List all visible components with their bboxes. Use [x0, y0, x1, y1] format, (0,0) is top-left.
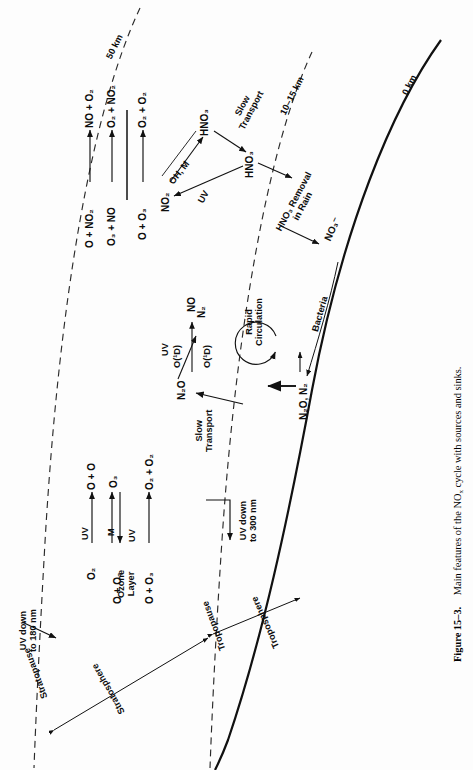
ozone-reaction-arrows: [92, 492, 149, 543]
uv-300-arrow: [206, 500, 230, 540]
rapid-circulation-line2: Circulation: [254, 298, 264, 346]
figure-caption: Figure 15–3. Main features of the NOx cy…: [452, 367, 465, 662]
ozone-eq2-right: O₃: [108, 476, 119, 488]
uv-300-line1: UV down: [238, 501, 248, 540]
stratosphere-extent-arrow: [54, 638, 208, 730]
process-o1d-branch: O(¹D): [172, 345, 182, 368]
species-no-product: NO: [186, 297, 197, 312]
ozone-eq1-right: O + O: [86, 463, 97, 490]
ozone-eq1-condition: UV: [80, 527, 90, 540]
species-hno3-lower: HNO₃: [244, 151, 255, 178]
species-n2o-stratosphere: N₂O: [176, 381, 187, 400]
uv-300-line2: to 300 nm: [248, 499, 258, 542]
ozone-eq1-left: O₂: [86, 568, 97, 580]
species-n2o-n2-surface: N₂O, N₂: [298, 383, 309, 420]
slow-transport-n2o-arrow: [196, 393, 243, 404]
slow-transport-n2o-line1: Slow: [194, 420, 204, 441]
nox-eq1-right: NO + O₂: [84, 89, 95, 128]
slow-transport-n2o-line2: Transport: [204, 410, 214, 452]
nox-eq3-right: O₂ + O₂: [137, 92, 148, 128]
tropopause-arc: [210, 52, 312, 768]
process-rapid-circulation: Rapid Circulation: [244, 298, 265, 346]
uv-down-300nm-label: UV down to 300 nm: [238, 499, 259, 542]
nox-eq2-right: O₂ + NO₂: [106, 85, 117, 128]
figure-canvas: 50 km 10–15 km 0 km O + NO₂ NO + O₂ O₃ +…: [0, 0, 473, 770]
process-uv-n2o: UV: [160, 343, 170, 356]
process-slow-transport-n2o: Slow Transport: [194, 410, 215, 452]
species-n2-product: N₂: [196, 306, 207, 318]
ozone-layer-line2: Layer: [126, 572, 136, 597]
species-hno3-stratosphere: HNO₃: [199, 109, 210, 136]
rapid-circulation-line1: Rapid: [244, 309, 254, 335]
figure-number: Figure 15–3.: [452, 607, 463, 662]
ground-surface-arc: [215, 40, 441, 770]
ozone-eq2-condition-above: M: [106, 528, 116, 536]
uv-down-180nm-label: UV down to 180 nm: [18, 609, 39, 652]
ozone-eq2-left: O + O₂: [112, 573, 123, 604]
nox-eq1-left: O + NO₂: [84, 209, 95, 248]
figure-caption-text: Main features of the NOx cycle with sour…: [452, 367, 463, 596]
ozone-eq3-right: O₂ + O₂: [144, 454, 155, 490]
nox-eq3-left: O + O₃: [137, 208, 148, 240]
uv-180-line1: UV down: [18, 611, 28, 650]
ozone-eq3-left: O + O₃: [144, 572, 155, 604]
nox-eq2-left: O₃ + NO: [106, 207, 117, 246]
species-no2: NO₂: [160, 193, 171, 212]
process-o1d-no: O(¹D): [202, 345, 212, 368]
uv-180-line2: to 180 nm: [28, 609, 38, 652]
ozone-eq2-condition-below: UV: [127, 529, 137, 542]
